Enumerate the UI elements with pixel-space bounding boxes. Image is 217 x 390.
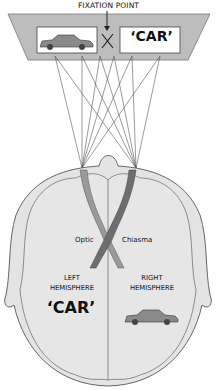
fixation-point-label: FIXATION POINT xyxy=(0,1,217,10)
light-rays xyxy=(55,56,160,168)
left-hemisphere-word: ‘CAR’ xyxy=(38,298,104,317)
optic-label: Optic xyxy=(75,236,94,244)
right-hemisphere-label: RIGHT HEMISPHERE xyxy=(122,273,182,293)
optic-chiasma-diagram xyxy=(0,0,217,390)
chiasma-label: Chiasma xyxy=(122,236,152,244)
left-hemisphere-label: LEFT HEMISPHERE xyxy=(42,273,102,293)
visual-field-word: ‘CAR’ xyxy=(124,28,179,44)
